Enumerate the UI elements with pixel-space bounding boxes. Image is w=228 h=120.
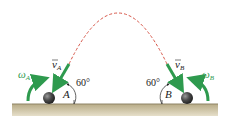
- trajectory-dashed-path: [69, 13, 167, 64]
- ball-a: [43, 92, 55, 104]
- angular-velocity-arrow-b: [192, 79, 208, 101]
- ball-b: [181, 92, 193, 104]
- ground: [12, 104, 218, 116]
- omega-b-label: ωB: [202, 68, 215, 82]
- omega-a-label: ωA: [18, 68, 31, 82]
- point-a-label: A: [62, 88, 70, 100]
- point-b-label: B: [165, 88, 172, 100]
- diagram-canvas: ωA vA 60° A 60° B vB ωB: [0, 0, 228, 120]
- angular-velocity-arrow-a: [28, 79, 44, 101]
- angle-a-label: 60°: [76, 77, 90, 88]
- angle-b-label: 60°: [146, 77, 160, 88]
